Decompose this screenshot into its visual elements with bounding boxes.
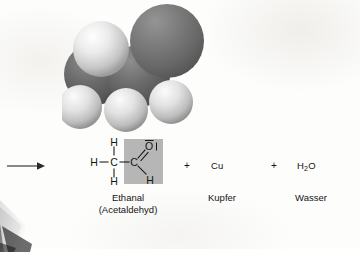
water-o: O [308, 160, 316, 171]
scan-edge-artifact [0, 196, 54, 252]
bond-c2-h [138, 166, 146, 174]
water-subscript: 2 [304, 165, 308, 172]
hydrogen-sphere-lower-right [149, 80, 193, 124]
plus-sign-2: + [271, 160, 277, 171]
caption-ethanal-main: Ethanal [112, 192, 144, 203]
plus-sign-1: + [184, 160, 190, 171]
hydrogen-sphere-top [73, 21, 129, 77]
product-water-formula: H2O [297, 160, 316, 172]
molecule-space-filling-model [62, 2, 210, 140]
atom-label-c1: C [110, 156, 118, 168]
hydrogen-sphere-lower-mid [104, 88, 148, 132]
atom-label-h-top: H [110, 138, 118, 148]
oxygen-sphere [130, 4, 204, 78]
atom-label-h-bottom: H [110, 175, 118, 186]
water-h: H [297, 160, 304, 171]
product-copper-symbol: Cu [211, 160, 224, 171]
caption-ethanal-synonym: (Acetaldehyd) [86, 204, 170, 216]
caption-ethanal: Ethanal (Acetaldehyd) [86, 192, 170, 215]
caption-wasser: Wasser [280, 192, 342, 204]
atom-label-h-left: H [90, 156, 98, 168]
atom-label-h-c2: H [146, 174, 154, 186]
atom-label-o: O [145, 140, 153, 152]
reaction-arrow [7, 159, 45, 173]
caption-kupfer: Kupfer [190, 192, 254, 204]
atom-label-c2: C [130, 156, 138, 168]
structural-formula-ethanal: H C H H C O H [88, 138, 170, 186]
